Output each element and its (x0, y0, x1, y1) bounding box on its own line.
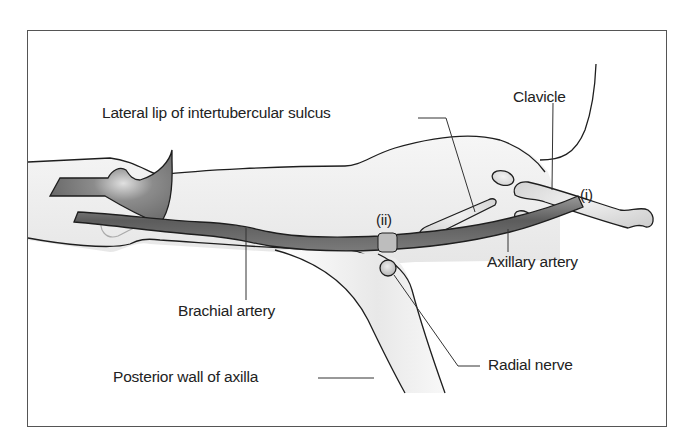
label-lateral-lip: Lateral lip of intertubercular sulcus (102, 104, 331, 122)
radial-nerve-section (380, 260, 396, 276)
label-point-i: (i) (580, 186, 593, 203)
label-posterior-wall: Posterior wall of axilla (113, 368, 258, 386)
label-axillary-artery: Axillary artery (487, 253, 578, 271)
label-brachial-artery: Brachial artery (178, 302, 275, 320)
anatomy-drawing (0, 0, 685, 448)
label-radial-nerve: Radial nerve (488, 356, 573, 374)
label-point-ii: (ii) (376, 211, 392, 228)
label-clavicle: Clavicle (513, 88, 566, 106)
leader-clavicle (552, 103, 553, 190)
marker-ii-band (378, 233, 397, 252)
shoulder-curve (540, 64, 596, 160)
posterior-wall-shape (275, 250, 445, 393)
